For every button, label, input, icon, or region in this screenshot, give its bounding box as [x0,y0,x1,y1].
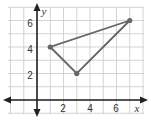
coordinate-plane: 2 4 6 2 4 6 x y [0,0,151,120]
x-tick-2: 2 [60,103,66,114]
x-tick-4: 4 [87,103,93,114]
y-tick-2: 2 [27,70,33,81]
vertex-point [127,18,132,23]
y-tick-4: 4 [27,44,33,55]
x-axis-right-arrow-icon [140,97,148,104]
vertex-point [74,71,79,76]
y-axis-label: y [41,5,47,17]
x-tick-6: 6 [113,103,119,114]
x-axis-left-arrow-icon [3,97,11,104]
y-tick-6: 6 [27,18,33,29]
tick-labels: 2 4 6 2 4 6 x y [27,5,139,114]
vertex-point [48,44,53,49]
x-axis-label: x [134,102,140,114]
